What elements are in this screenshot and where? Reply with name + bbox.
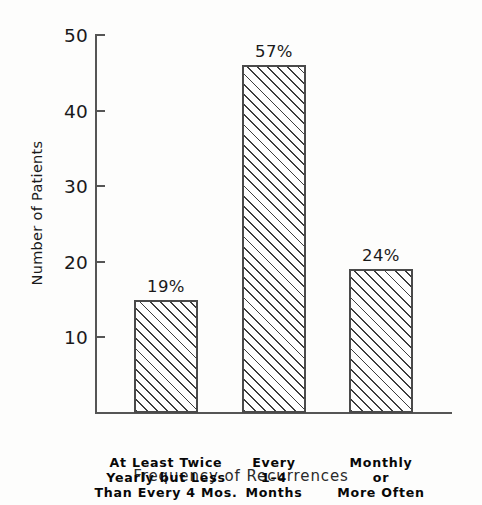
bar[interactable] <box>134 300 198 413</box>
bar-group[interactable]: 19%At Least Twice Yearly but Less Than E… <box>134 35 198 413</box>
bar-chart: Number of Patients 5040302010 Frequency … <box>0 0 482 505</box>
x-axis-category-label: Monthly or More Often <box>309 455 453 501</box>
y-axis-tick-label: 30 <box>28 176 88 197</box>
bar-value-label: 19% <box>108 277 224 296</box>
y-axis-tick-label: 40 <box>28 100 88 121</box>
y-axis-title: Number of Patients <box>29 113 45 313</box>
plot-area: 19%At Least Twice Yearly but Less Than E… <box>95 35 452 413</box>
y-axis-tick-label: 50 <box>28 25 88 46</box>
bar-group[interactable]: 24%Monthly or More Often <box>349 35 413 413</box>
bar-value-label: 57% <box>216 42 332 61</box>
bar-group[interactable]: 57%Every 1–4 Months <box>242 35 306 413</box>
bar[interactable] <box>242 65 306 413</box>
y-axis-tick-label: 20 <box>28 251 88 272</box>
y-axis-tick-label: 10 <box>28 327 88 348</box>
bar-value-label: 24% <box>323 246 439 265</box>
bar[interactable] <box>349 269 413 413</box>
